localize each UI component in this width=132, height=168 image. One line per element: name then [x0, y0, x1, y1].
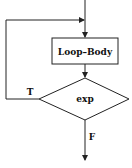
loop-body-label: Loop–Body	[58, 47, 113, 57]
loop-body-node: Loop–Body	[52, 38, 118, 64]
true-branch-label: T	[27, 87, 34, 97]
flowchart: Loop–Body exp T F	[0, 0, 132, 168]
false-branch-label: F	[89, 132, 96, 142]
condition-label: exp	[76, 94, 93, 104]
condition-node: exp	[39, 78, 129, 120]
